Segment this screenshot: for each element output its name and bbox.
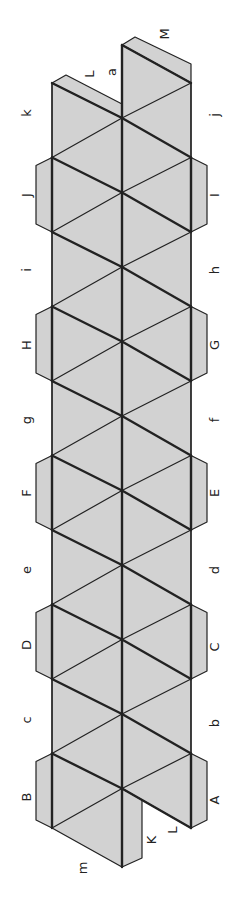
- edge-label: e: [19, 566, 34, 574]
- glue-tab-left: [36, 754, 52, 829]
- polyhedron-net: kJiHgFeDcBjIhGfEdCbALaMmKL: [0, 0, 249, 906]
- edge-label: J: [19, 193, 34, 198]
- edge-label: F: [19, 489, 34, 496]
- edge-label: f: [207, 417, 222, 422]
- edge-label: B: [19, 793, 34, 802]
- edge-label: C: [207, 642, 222, 651]
- edge-label: L: [82, 70, 97, 78]
- edge-label: E: [207, 489, 222, 497]
- edge-label: g: [19, 416, 34, 424]
- edge-label: b: [207, 719, 222, 727]
- glue-tab-right: [191, 456, 207, 531]
- glue-tab-left: [36, 158, 52, 233]
- edge-label: K: [144, 835, 159, 844]
- glue-tab-right: [191, 754, 207, 829]
- edge-label: H: [19, 340, 34, 350]
- glue-tab-left: [36, 307, 52, 382]
- edge-label: h: [207, 266, 222, 274]
- edge-label: m: [75, 862, 90, 875]
- edge-label: L: [165, 826, 180, 834]
- glue-tab-right: [191, 605, 207, 680]
- glue-tab-right: [191, 158, 207, 233]
- glue-tab-left: [36, 456, 52, 531]
- edge-label: i: [19, 268, 34, 272]
- edge-label: k: [19, 109, 34, 117]
- edge-label: G: [207, 340, 222, 350]
- edge-label: d: [207, 566, 222, 574]
- glue-tab-bottom-K: [122, 789, 142, 868]
- edge-label: j: [207, 113, 222, 118]
- edge-label: a: [104, 68, 119, 76]
- edge-label: D: [19, 640, 34, 650]
- edge-label: M: [157, 28, 172, 39]
- glue-tab-left: [36, 605, 52, 680]
- edge-label: A: [207, 795, 222, 804]
- edge-label: I: [207, 193, 222, 197]
- edge-label: c: [19, 716, 34, 723]
- glue-tab-right: [191, 307, 207, 382]
